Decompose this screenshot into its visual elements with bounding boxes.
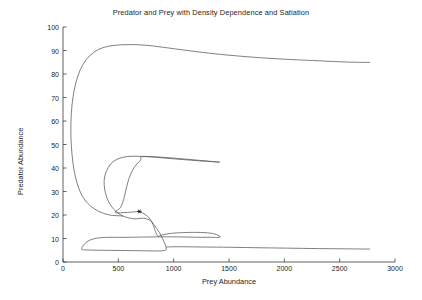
trajectory-line [71, 45, 370, 216]
plot-canvas [0, 0, 422, 300]
annotation-markers [137, 210, 141, 214]
data-series-group [71, 45, 370, 251]
trajectory-line [82, 156, 221, 251]
trajectory-line [166, 247, 369, 249]
figure-container: Predator and Prey with Density Dependenc… [0, 0, 422, 300]
